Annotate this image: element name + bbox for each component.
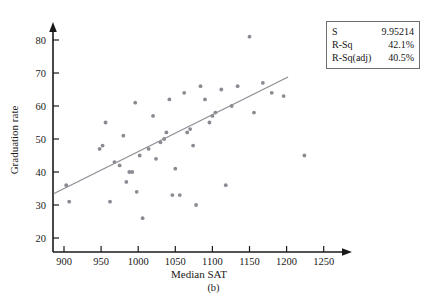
data-point xyxy=(104,121,108,125)
x-axis-tick-label: 1250 xyxy=(313,256,334,267)
y-axis-tick-label: 40 xyxy=(36,167,47,178)
legend-stat-value: 42.1% xyxy=(380,38,414,51)
data-point xyxy=(199,84,203,88)
legend-stat-label: R-Sq xyxy=(332,38,353,51)
legend-stat-value: 40.5% xyxy=(380,51,414,64)
data-point xyxy=(219,88,223,92)
data-point xyxy=(67,200,71,204)
x-axis-ticks: 900950100010501100115012001250 xyxy=(56,246,334,267)
x-axis-tick-label: 1050 xyxy=(165,256,186,267)
data-point xyxy=(194,203,198,207)
data-point xyxy=(261,81,265,85)
data-point xyxy=(303,154,307,158)
data-point xyxy=(138,154,142,158)
data-point xyxy=(121,134,125,138)
legend-row: R-Sq(adj)40.5% xyxy=(332,51,414,64)
data-point xyxy=(130,170,134,174)
data-point xyxy=(252,111,256,115)
regression-stats-legend: S9.95214R-Sq42.1%R-Sq(adj)40.5% xyxy=(326,21,420,69)
data-point xyxy=(135,190,139,194)
data-point xyxy=(133,101,137,105)
x-axis-tick-label: 1100 xyxy=(202,256,223,267)
data-point xyxy=(188,127,192,131)
legend-stat-label: R-Sq(adj) xyxy=(332,51,371,64)
data-point xyxy=(108,200,112,204)
data-point xyxy=(101,144,105,148)
data-point xyxy=(124,180,128,184)
legend-stat-label: S xyxy=(332,25,338,38)
y-axis-tick-label: 80 xyxy=(36,35,47,46)
y-axis-tick-label: 60 xyxy=(36,101,47,112)
x-axis-tick-label: 950 xyxy=(93,256,109,267)
regression-fit-line xyxy=(54,77,288,194)
data-point xyxy=(167,98,171,102)
data-point xyxy=(248,35,252,39)
x-axis-tick-label: 900 xyxy=(56,256,72,267)
x-axis-tick-label: 1150 xyxy=(239,256,260,267)
data-point xyxy=(178,193,182,197)
data-point xyxy=(182,91,186,95)
data-point xyxy=(236,84,240,88)
y-axis-tick-label: 30 xyxy=(36,200,47,211)
data-point xyxy=(224,183,228,187)
data-point xyxy=(282,94,286,98)
data-point xyxy=(154,157,158,161)
data-point xyxy=(173,167,177,171)
data-point xyxy=(270,91,274,95)
y-axis-tick-label: 70 xyxy=(36,68,47,79)
data-point xyxy=(151,114,155,118)
data-point xyxy=(185,131,189,135)
data-point xyxy=(164,131,168,135)
x-axis-arrowhead xyxy=(342,248,352,256)
legend-row: R-Sq42.1% xyxy=(332,38,414,51)
data-point xyxy=(98,147,102,151)
y-axis-ticks: 20304050607080 xyxy=(36,35,60,244)
figure-caption: (b) xyxy=(0,282,427,293)
scatter-plot-figure: 20304050607080 9009501000105011001150120… xyxy=(0,0,427,303)
y-axis-arrowhead xyxy=(49,22,57,32)
y-axis-tick-label: 50 xyxy=(36,134,47,145)
y-axis-title: Graduation rate xyxy=(8,106,20,175)
x-axis-tick-label: 1200 xyxy=(276,256,297,267)
axes-group xyxy=(49,22,352,256)
y-axis-tick-label: 20 xyxy=(36,233,47,244)
x-axis-tick-label: 1000 xyxy=(128,256,149,267)
data-point xyxy=(118,164,122,168)
data-point xyxy=(191,144,195,148)
data-point xyxy=(170,193,174,197)
legend-row: S9.95214 xyxy=(332,25,414,38)
x-axis-title: Median SAT xyxy=(171,268,227,280)
data-point xyxy=(208,121,212,125)
legend-stat-value: 9.95214 xyxy=(374,25,415,38)
data-point xyxy=(203,98,207,102)
data-point xyxy=(141,216,145,220)
